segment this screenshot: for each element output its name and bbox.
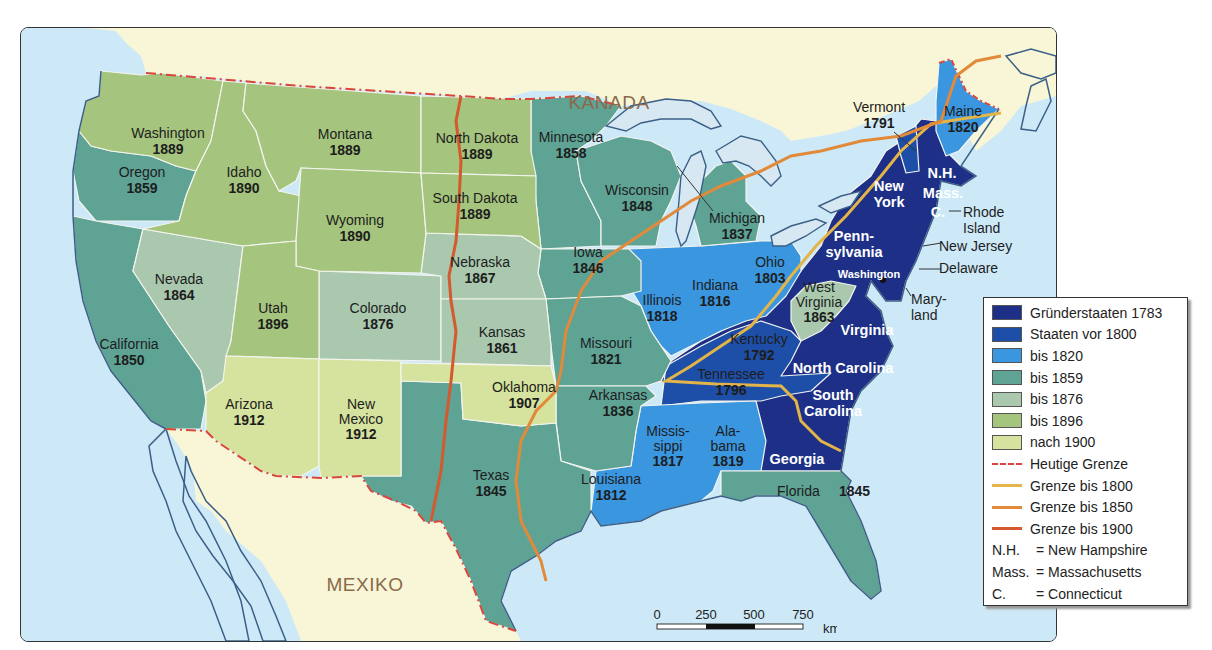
state-label: Missouri (580, 335, 632, 351)
state-label: Carolina (804, 403, 863, 419)
state-label: 1864 (163, 287, 194, 303)
country-label-mexico: MEXIKO (327, 574, 404, 595)
state-label: Virginia (841, 322, 895, 338)
state-label: 1836 (602, 403, 633, 419)
state-label: 750 (792, 607, 814, 622)
line-border-1850 (992, 500, 1022, 515)
state-label: Kentucky (730, 331, 788, 347)
state-label: 1861 (486, 340, 517, 356)
state-label: Arizona (225, 396, 273, 412)
state-label: Iowa (573, 244, 603, 260)
state-label: C. (931, 204, 946, 220)
state-label: Washington (838, 268, 901, 280)
state-label: Montana (318, 126, 373, 142)
state-label: N.H. (928, 165, 957, 181)
legend-item: Staaten vor 1800 (992, 324, 1187, 346)
legend-abbreviation: N.H.= New Hampshire (992, 540, 1187, 562)
state-label: 1889 (459, 206, 490, 222)
state-label: 1837 (721, 226, 752, 242)
state-label: Ohio (755, 254, 785, 270)
state-label: bama (710, 438, 745, 454)
state-label: Island (963, 220, 1000, 236)
state-label: Washington (131, 125, 204, 141)
state-label: sippi (654, 438, 683, 454)
state-label: 1889 (329, 142, 360, 158)
state-label: Michigan (709, 210, 765, 226)
swatch-until-1876 (992, 392, 1022, 407)
state-label: Mary- (911, 291, 947, 307)
legend-item: bis 1896 (992, 410, 1187, 432)
state-label: 1890 (228, 180, 259, 196)
country-label-canada: KANADA (568, 92, 649, 113)
state-label: 1889 (461, 146, 492, 162)
state-label: Rhode (963, 204, 1004, 220)
state-label: 1845 (475, 483, 506, 499)
state-label: 1846 (572, 260, 603, 276)
state-label: Louisiana (581, 471, 641, 487)
state-label: Ala- (716, 423, 741, 439)
state-label: 500 (743, 607, 765, 622)
state-label: 1907 (508, 395, 539, 411)
state-label: 1889 (152, 141, 183, 157)
state-label: Kansas (479, 324, 526, 340)
state-label: Tennessee (697, 366, 765, 382)
legend-item: Grenze bis 1800 (992, 475, 1187, 497)
swatch-until-1859 (992, 370, 1022, 385)
state-label: 1803 (754, 270, 785, 286)
state-label: 1820 (947, 119, 978, 135)
state-label: Mass. (923, 185, 963, 201)
state-label: Wyoming (326, 212, 384, 228)
state-label: 1863 (803, 309, 834, 325)
legend: Gründerstaaten 1783 Staaten vor 1800 bis… (983, 297, 1188, 606)
state-label: 1791 (863, 115, 894, 131)
state-label: Virginia (796, 294, 843, 310)
state-label: 1896 (257, 316, 288, 332)
map-shape (706, 624, 755, 629)
swatch-after-1900 (992, 435, 1022, 450)
swatch-until-1896 (992, 413, 1022, 428)
state-label: 1816 (699, 293, 730, 309)
legend-item: Grenze bis 1850 (992, 496, 1187, 518)
legend-item: bis 1820 (992, 345, 1187, 367)
state-label: Texas (473, 467, 510, 483)
swatch-founding-1783 (992, 305, 1022, 320)
state-label: 1796 (715, 382, 746, 398)
state-label: 1821 (590, 351, 621, 367)
state-label: land (911, 307, 937, 323)
state-label: 1890 (339, 228, 370, 244)
state-label: Georgia (770, 451, 826, 467)
state-label: New (347, 396, 376, 412)
state-label: Indiana (692, 277, 738, 293)
state-label: 1876 (362, 316, 393, 332)
state-label: 1850 (113, 352, 144, 368)
line-border-today (992, 456, 1022, 471)
map-frame: KANADA MEXIKO Washington1889 Oregon1859 … (20, 27, 1057, 642)
state-label: Florida (777, 483, 820, 499)
legend-item: nach 1900 (992, 432, 1187, 454)
state-label: 0 (653, 607, 660, 622)
state-label: 1858 (555, 145, 586, 161)
state-label: Mexico (339, 411, 384, 427)
us-statehood-map: KANADA MEXIKO Washington1889 Oregon1859 … (21, 28, 1056, 641)
state-label: Utah (258, 300, 288, 316)
state-label: 250 (695, 607, 717, 622)
scale-bar: 0 250 500 750 km (637, 606, 837, 642)
swatch-until-1820 (992, 348, 1022, 363)
state-label: Arkansas (589, 387, 647, 403)
state-label: Nevada (155, 271, 203, 287)
state-label: South Dakota (433, 190, 518, 206)
legend-item: bis 1859 (992, 367, 1187, 389)
state-label: Penn- (834, 228, 874, 244)
state-label: 1819 (712, 453, 743, 469)
state-label: 1859 (126, 180, 157, 196)
state-label: Maine (944, 103, 982, 119)
line-border-1800 (992, 478, 1022, 493)
state-label: Illinois (643, 292, 682, 308)
state-label: New Jersey (939, 238, 1012, 254)
state-label: 1845 (839, 483, 870, 499)
legend-item: Heutige Grenze (992, 453, 1187, 475)
legend-abbreviation: C.= Connecticut (992, 583, 1187, 605)
state-label: 1867 (464, 270, 495, 286)
state-label: Missis- (646, 423, 690, 439)
legend-item: Grenze bis 1900 (992, 518, 1187, 540)
